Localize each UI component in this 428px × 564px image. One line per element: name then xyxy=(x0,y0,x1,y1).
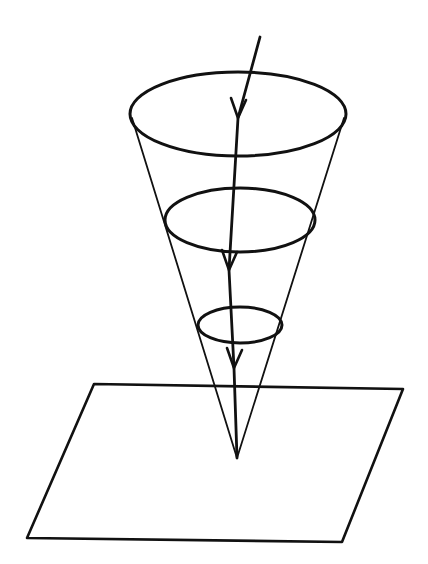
arrowheads xyxy=(222,98,246,368)
cone-left-side xyxy=(132,118,237,458)
cone-bottom-ellipse xyxy=(198,307,282,343)
cone-diagram xyxy=(0,0,428,564)
cone-middle-ellipse xyxy=(165,188,315,252)
plane xyxy=(27,384,403,542)
cone-right-side xyxy=(237,118,344,458)
ray-line xyxy=(229,37,260,458)
diagram-canvas: Hand-drawn cone with apex touching a pla… xyxy=(0,0,428,564)
